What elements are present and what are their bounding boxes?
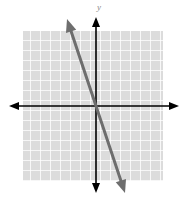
- x-axis-right-arrowhead: [169, 102, 179, 110]
- coordinate-plane: [0, 0, 187, 200]
- x-axis-left-arrowhead: [9, 102, 19, 110]
- graph-figure: y: [0, 0, 187, 200]
- line-lower-arrowhead: [116, 179, 126, 193]
- line-upper-arrowhead: [66, 19, 76, 33]
- y-axis-label: y: [97, 3, 101, 12]
- y-axis-top-arrowhead: [92, 17, 100, 27]
- y-axis-bottom-arrowhead: [92, 183, 100, 193]
